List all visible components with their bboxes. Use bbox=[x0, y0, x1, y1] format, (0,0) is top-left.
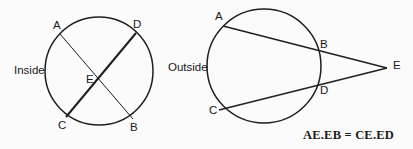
outside-region-label: Outside bbox=[168, 62, 208, 74]
inside-chord-ab bbox=[60, 34, 133, 119]
outside-secant-ce bbox=[219, 68, 387, 110]
inside-chord-dc bbox=[66, 33, 136, 117]
outside-secant-ae bbox=[223, 26, 387, 68]
inside-point-label-a: A bbox=[53, 20, 61, 32]
inside-point-label-b: B bbox=[130, 122, 138, 134]
inside-point-label-e: E bbox=[86, 74, 94, 86]
outside-point-label-e: E bbox=[393, 60, 401, 72]
outside-point-label-c: C bbox=[209, 105, 217, 117]
outside-point-label-b: B bbox=[320, 39, 328, 51]
power-of-a-point-formula: AE.EB = CE.ED bbox=[303, 128, 394, 143]
inside-circle bbox=[45, 17, 153, 125]
outside-point-label-d: D bbox=[320, 85, 328, 97]
inside-point-label-d: D bbox=[133, 19, 141, 31]
inside-point-label-c: C bbox=[58, 120, 66, 132]
outside-point-label-a: A bbox=[215, 11, 223, 23]
inside-region-label: Inside bbox=[14, 65, 45, 77]
geometry-figure-canvas: Inside A D C B E Outside A B C D E AE.EB… bbox=[0, 0, 413, 149]
